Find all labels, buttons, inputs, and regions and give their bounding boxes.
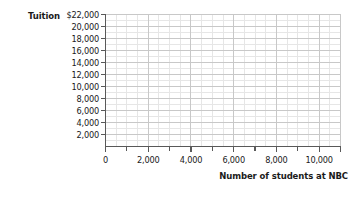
x-axis-title: Number of students at NBC [0, 171, 348, 181]
x-axis-tick-label: 4,000 [180, 155, 202, 165]
x-axis-tick-label-group: 02,0004,0006,0008,00010,000 [0, 0, 356, 197]
x-axis-tick-label: 10,000 [305, 155, 332, 165]
x-axis-tick-label: 6,000 [222, 155, 244, 165]
x-axis-tick-label: 0 [103, 155, 108, 165]
x-axis-tick-label: 2,000 [137, 155, 159, 165]
x-axis-tick-label: 8,000 [265, 155, 287, 165]
chart-container: Tuition $22,00020,00018,00016,00014,0001… [0, 0, 356, 197]
